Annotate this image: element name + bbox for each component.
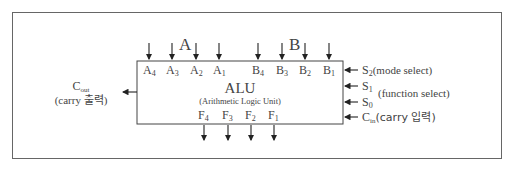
alu-subtitle: (Arithmetic Logic Unit) bbox=[199, 96, 281, 106]
svg-text:F2: F2 bbox=[245, 108, 256, 123]
control-labels: S2(mode select) S1 S0 (function select) … bbox=[362, 63, 450, 125]
svg-text:B4: B4 bbox=[252, 63, 264, 78]
svg-text:(carry 출력): (carry 출력) bbox=[55, 94, 108, 107]
group-label-b: B bbox=[289, 35, 300, 54]
svg-text:B3: B3 bbox=[276, 63, 288, 78]
svg-text:A2: A2 bbox=[190, 63, 203, 78]
svg-text:F1: F1 bbox=[268, 108, 279, 123]
svg-text:S0: S0 bbox=[362, 95, 373, 110]
b-input-labels: B4 B3 B2 B1 bbox=[252, 63, 335, 78]
svg-text:S2(mode select): S2(mode select) bbox=[362, 63, 433, 78]
svg-text:B2: B2 bbox=[299, 63, 311, 78]
control-arrows bbox=[345, 70, 358, 117]
alu-diagram: A B A4 A3 A2 A1 B4 B3 B2 B1 ALU (Arithme… bbox=[0, 0, 517, 169]
svg-text:Cin(carry 입력): Cin(carry 입력) bbox=[362, 110, 436, 125]
cout-label: Cout (carry 출력) bbox=[55, 79, 108, 107]
alu-title: ALU bbox=[225, 80, 256, 96]
a-input-labels: A4 A3 A2 A1 bbox=[143, 63, 226, 78]
svg-text:A4: A4 bbox=[143, 63, 156, 78]
f-output-arrows bbox=[204, 125, 274, 140]
svg-text:Cout: Cout bbox=[73, 79, 90, 94]
svg-text:A3: A3 bbox=[166, 63, 179, 78]
function-select-label: (function select) bbox=[378, 87, 450, 100]
svg-text:S1: S1 bbox=[362, 79, 373, 94]
svg-text:F3: F3 bbox=[222, 108, 233, 123]
svg-text:A1: A1 bbox=[213, 63, 226, 78]
f-output-labels: F4 F3 F2 F1 bbox=[198, 108, 279, 123]
group-label-a: A bbox=[179, 35, 192, 54]
svg-text:F4: F4 bbox=[198, 108, 209, 123]
svg-text:B1: B1 bbox=[323, 63, 335, 78]
